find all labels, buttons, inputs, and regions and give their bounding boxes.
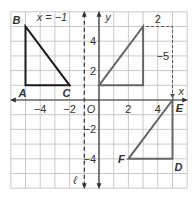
shapes [26,27,176,159]
coordinate-plane: −4−22442−2−4Oxyx = −1ℓBACEFD2−5 [0,0,195,200]
translation-vertical-label: −5 [157,50,170,62]
y-tick-label: 4 [90,35,96,47]
vertex-label-e: E [176,102,184,114]
translation-horizontal-label: 2 [155,13,161,25]
x-tick-label: 2 [125,103,131,115]
y-tick-label: −4 [83,153,96,165]
translation-arrow-icon [170,94,175,98]
axes [13,14,185,186]
vertex-label-c: C [63,87,72,99]
reflection-line-name: ℓ [73,174,78,186]
reflection-equation-label: x = −1 [36,11,68,23]
y-tick-label: 2 [90,65,96,77]
vertex-label-a: A [18,87,27,99]
x-tick-label: −4 [34,103,47,115]
x-tick-label: −2 [63,103,76,115]
x-axis-label: x [178,85,185,97]
vertex-label-f: F [118,153,125,165]
origin-label: O [87,103,96,115]
vertex-label-b: B [13,14,21,26]
y-axis-label: y [104,11,112,23]
vertex-label-d: D [175,161,183,173]
x-tick-label: 4 [155,103,161,115]
y-tick-label: −2 [83,123,96,135]
